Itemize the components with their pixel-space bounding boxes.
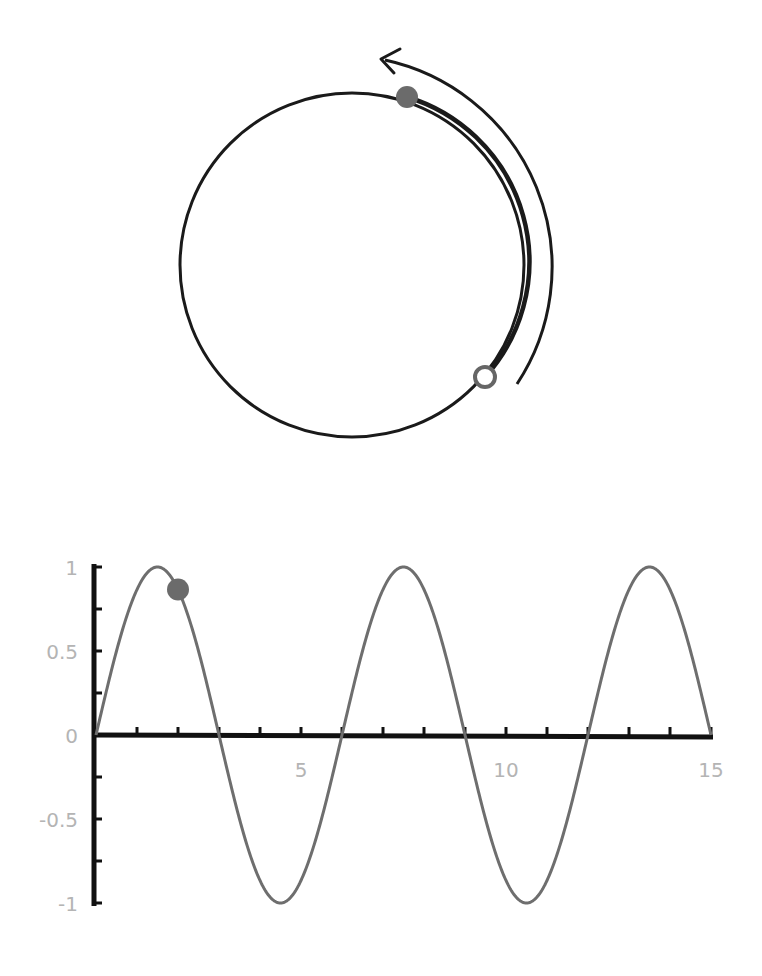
x-tick-label: 5 <box>295 758 308 782</box>
y-tick-label: -0.5 <box>39 808 78 832</box>
y-tick-label: 0 <box>65 724 78 748</box>
current-point-filled-dot <box>396 86 418 108</box>
y-axis-labels: 10.50-0.5-1 <box>39 556 78 916</box>
start-point-open-dot <box>475 367 495 387</box>
unit-circle-diagram <box>180 49 552 437</box>
x-axis-labels: 51015 <box>295 758 724 782</box>
x-tick-label: 10 <box>493 758 518 782</box>
x-axis <box>94 735 713 737</box>
y-tick-label: -1 <box>58 892 78 916</box>
y-tick-label: 1 <box>65 556 78 580</box>
current-value-marker <box>167 579 189 601</box>
sine-chart: 10.50-0.5-1 51015 <box>39 556 724 916</box>
unit-circle <box>180 93 524 437</box>
y-tick-label: 0.5 <box>46 640 78 664</box>
x-tick-label: 15 <box>698 758 723 782</box>
diagram-canvas: 10.50-0.5-1 51015 <box>0 0 762 976</box>
